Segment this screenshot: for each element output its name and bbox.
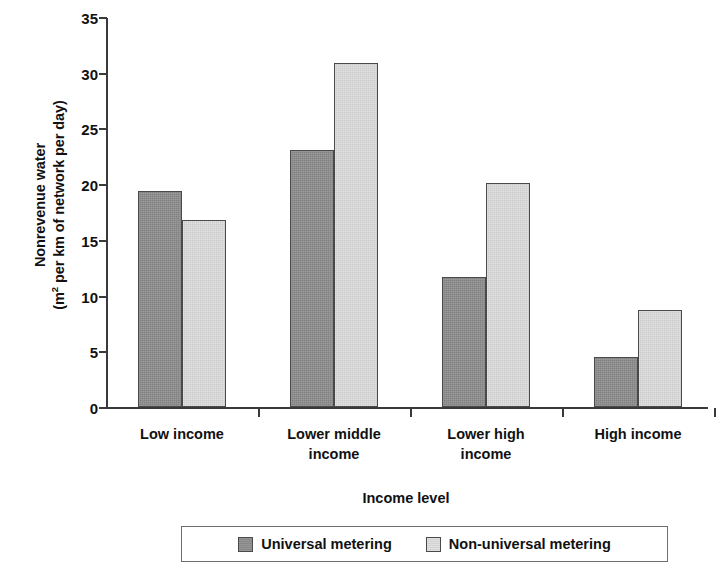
y-axis-tick <box>99 296 107 298</box>
category-label-line: Lower middle <box>254 425 414 445</box>
y-axis-tick-label: 20 <box>58 177 98 194</box>
category-label-line: Low income <box>102 425 262 445</box>
category-label-line: Lower high <box>406 425 566 445</box>
x-axis-category-label: Lower highincome <box>406 425 566 464</box>
legend-swatch-universal-metering <box>238 537 253 552</box>
legend-swatch-non-universal-metering <box>426 537 441 552</box>
bar-non-universal-1 <box>334 63 378 407</box>
y-axis-title-line-1: Nonrevenue water <box>31 143 50 267</box>
bar-non-universal-2 <box>486 183 530 407</box>
x-axis-category-label: Lower middleincome <box>254 425 414 464</box>
y-axis-tick-label: 15 <box>58 232 98 249</box>
y-axis-tick-label: 35 <box>58 10 98 27</box>
y-axis-tick <box>99 407 107 409</box>
y-axis-tick-label: 5 <box>58 344 98 361</box>
y-axis-tick <box>99 128 107 130</box>
bar-universal-0 <box>138 191 182 407</box>
legend-item-non-universal-metering: Non-universal metering <box>426 536 611 552</box>
y-axis-tick <box>99 17 107 19</box>
y-axis-tick-label: 0 <box>58 400 98 417</box>
plot-area <box>106 18 706 408</box>
x-axis-line <box>106 407 708 409</box>
y-axis-tick-label: 25 <box>58 121 98 138</box>
x-axis-category-label: High income <box>558 425 716 445</box>
x-axis-tick <box>410 408 412 417</box>
y-axis-tick-label: 10 <box>58 288 98 305</box>
bar-non-universal-0 <box>182 220 226 407</box>
y-axis-tick <box>99 351 107 353</box>
y-axis-tick-label: 30 <box>58 65 98 82</box>
y-axis-tick <box>99 73 107 75</box>
category-label-line: High income <box>558 425 716 445</box>
legend-label-universal-metering: Universal metering <box>261 536 392 552</box>
chart-legend: Universal metering Non-universal meterin… <box>181 526 668 562</box>
y-axis-tick <box>99 240 107 242</box>
x-axis-tick <box>562 408 564 417</box>
x-axis-title: Income level <box>106 490 706 506</box>
bar-non-universal-3 <box>638 310 682 407</box>
y-axis-tick-labels: 05101520253035 <box>58 18 98 408</box>
y-axis-tick <box>99 184 107 186</box>
bar-universal-1 <box>290 150 334 407</box>
legend-label-non-universal-metering: Non-universal metering <box>449 536 611 552</box>
bar-universal-3 <box>594 357 638 407</box>
bar-universal-2 <box>442 277 486 407</box>
x-axis-category-label: Low income <box>102 425 262 445</box>
bar-chart-figure: Nonrevenue water (m2 per km of network p… <box>0 0 716 562</box>
legend-item-universal-metering: Universal metering <box>238 536 392 552</box>
x-axis-tick <box>258 408 260 417</box>
category-label-line: income <box>406 445 566 465</box>
category-label-line: income <box>254 445 414 465</box>
